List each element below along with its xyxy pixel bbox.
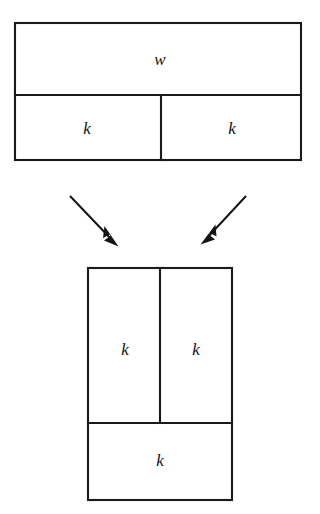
label-bottom-upper-right-k: k (192, 340, 200, 359)
dissection-diagram: w k k k k k (0, 0, 320, 514)
label-bottom-lower-band-k: k (156, 451, 164, 470)
top-figure-fill (15, 23, 301, 160)
bottom-figure-group: k k k (88, 268, 232, 500)
right-arrow-icon (201, 196, 247, 245)
label-top-bottom-left-k: k (83, 119, 91, 138)
arrows-group (70, 196, 246, 247)
right-arrow-head (201, 225, 217, 245)
label-top-bottom-right-k: k (228, 119, 236, 138)
left-arrow-head (103, 226, 119, 247)
label-bottom-upper-left-k: k (121, 340, 129, 359)
left-arrow-icon (70, 196, 119, 247)
label-top-band-w: w (154, 50, 166, 69)
top-figure-group: w k k (15, 23, 301, 160)
